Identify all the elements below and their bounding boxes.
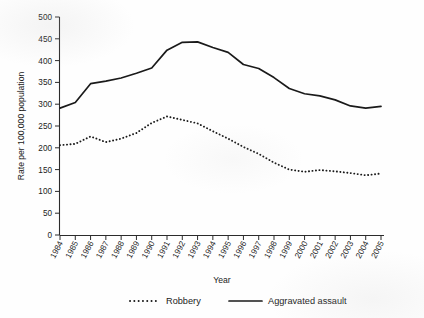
x-tick-label: 1986: [79, 239, 96, 260]
x-tick-label: 1999: [278, 239, 295, 260]
legend-label-aggravated-assault: Aggravated assault: [268, 296, 347, 306]
y-tick-label: 450: [38, 35, 52, 44]
chart-legend: RobberyAggravated assault: [130, 296, 347, 306]
x-tick-label: 1987: [94, 239, 111, 260]
data-series-group: [60, 42, 381, 175]
y-tick-label: 350: [38, 78, 52, 87]
x-tick-label: 1998: [262, 239, 279, 260]
x-tick-label: 1996: [232, 239, 249, 260]
x-tick-label: 2000: [293, 239, 310, 260]
y-tick-label: 500: [38, 13, 52, 22]
y-tick-label: 200: [38, 144, 52, 153]
x-tick-label: 2004: [354, 239, 371, 260]
y-tick-label: 50: [43, 209, 53, 218]
series-line-robbery: [60, 116, 381, 175]
x-tick-label: 2001: [308, 239, 325, 260]
x-tick-label: 1990: [140, 239, 157, 260]
x-tick-label: 1995: [217, 239, 234, 260]
chart-figure: 050100150200250300350400450500 198419851…: [0, 0, 424, 318]
y-axis-tick-labels: 050100150200250300350400450500: [38, 13, 52, 240]
x-tick-label: 2002: [324, 239, 341, 260]
y-tick-label: 400: [38, 57, 52, 66]
x-tick-label: 1988: [110, 239, 127, 260]
y-tick-label: 0: [47, 231, 52, 240]
x-tick-label: 2005: [369, 239, 386, 260]
x-axis-title: Year: [213, 275, 231, 285]
x-tick-label: 1989: [125, 239, 142, 260]
y-tick-label: 150: [38, 166, 52, 175]
series-line-aggravated-assault: [60, 42, 381, 108]
x-tick-label: 1991: [155, 239, 172, 260]
y-tick-label: 100: [38, 187, 52, 196]
x-tick-label: 1997: [247, 239, 264, 260]
x-tick-label: 1993: [186, 239, 203, 260]
line-chart: 050100150200250300350400450500 198419851…: [0, 0, 424, 318]
y-axis-title: Rate per 100,000 population: [16, 72, 26, 181]
x-tick-label: 1984: [48, 239, 65, 260]
x-tick-label: 1992: [171, 239, 188, 260]
y-tick-label: 300: [38, 100, 52, 109]
legend-label-robbery: Robbery: [166, 296, 201, 306]
x-tick-label: 2003: [339, 239, 356, 260]
x-axis-tick-labels: 1984198519861987198819891990199119921993…: [48, 239, 386, 260]
x-tick-label: 1985: [64, 239, 81, 260]
x-tick-label: 1994: [201, 239, 218, 260]
y-axis-ticks: [55, 17, 60, 235]
y-tick-label: 250: [38, 122, 52, 131]
x-axis-ticks: [60, 236, 381, 241]
